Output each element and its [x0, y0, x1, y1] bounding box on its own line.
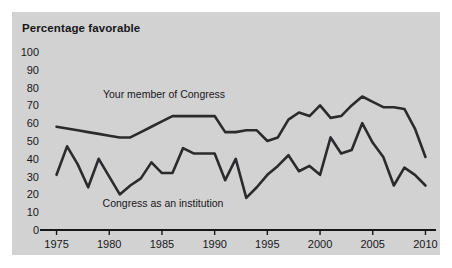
- y-axis-tick-label: 90: [27, 64, 39, 76]
- line-chart-plot: 0102030405060708090100 19751980198519901…: [12, 12, 440, 255]
- chart-figure: Percentage favorable 0102030405060708090…: [0, 0, 452, 268]
- data-series-group: [57, 97, 426, 198]
- y-axis-tick-label: 20: [27, 188, 39, 200]
- x-axis-tick-label: 1985: [150, 238, 174, 250]
- x-axis-tick-labels: 19751980198519901995200020052010: [44, 238, 437, 250]
- x-axis-tick-label: 2000: [308, 238, 332, 250]
- series-label-congress-as-an-institution: Congress as an institution: [103, 197, 224, 209]
- data-line-congress-as-an-institution: [57, 123, 426, 198]
- y-axis-tick-label: 70: [27, 99, 39, 111]
- data-line-your-member-of-congress: [57, 97, 426, 158]
- series-inline-labels: Your member of CongressCongress as an in…: [103, 88, 226, 209]
- series-label-your-member-of-congress: Your member of Congress: [103, 88, 225, 100]
- y-axis-tick-label: 0: [33, 224, 39, 236]
- x-axis-tick-label: 1980: [97, 238, 121, 250]
- x-axis-tick-label: 1990: [202, 238, 226, 250]
- x-axis-tick-label: 2010: [413, 238, 437, 250]
- y-axis-tick-labels: 0102030405060708090100: [21, 46, 39, 236]
- x-axis-tick-label: 1975: [44, 238, 68, 250]
- y-axis-tick-label: 60: [27, 117, 39, 129]
- y-axis-tick-label: 10: [27, 206, 39, 218]
- y-axis-tick-label: 30: [27, 171, 39, 183]
- x-axis-tick-label: 1995: [255, 238, 279, 250]
- y-axis-tick-label: 80: [27, 82, 39, 94]
- y-axis-tick-label: 40: [27, 153, 39, 165]
- y-axis-tick-label: 100: [21, 46, 39, 58]
- x-axis-tick-label: 2005: [361, 238, 385, 250]
- y-axis-tick-label: 50: [27, 135, 39, 147]
